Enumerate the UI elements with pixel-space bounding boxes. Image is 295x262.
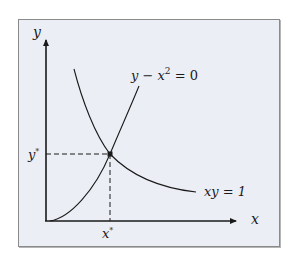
- y-axis-label: y: [32, 24, 42, 40]
- x-axis-label: x: [251, 211, 259, 227]
- y-star-label: y*: [27, 147, 39, 162]
- hyperbola-equation: xy = 1: [204, 184, 246, 199]
- diagram-canvas: y x y* x* y − x2 = 0 xy = 1: [0, 0, 295, 262]
- x-star-label: x*: [102, 226, 113, 241]
- hyperbola-curve: [74, 69, 196, 192]
- parabola-equation: y − x2 = 0: [130, 66, 198, 83]
- intersection-point: [108, 152, 113, 157]
